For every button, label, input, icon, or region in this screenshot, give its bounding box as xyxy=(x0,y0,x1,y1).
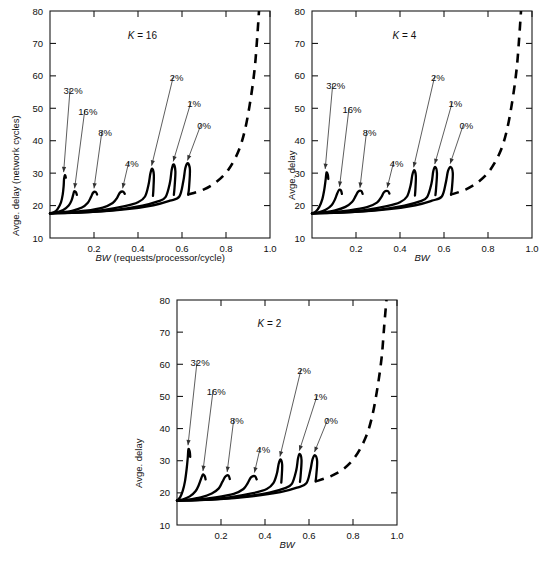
x-tick-label: 1.0 xyxy=(390,530,403,541)
annotation-leader-line xyxy=(435,102,453,164)
series-annotation-label: 16% xyxy=(78,106,98,117)
chart-panel-k16: 10203040506070800.20.40.60.81.0K = 1632%… xyxy=(0,0,285,280)
annotation-arrowhead xyxy=(226,467,230,472)
panel-title: K = 2 xyxy=(258,318,282,329)
y-tick-label: 70 xyxy=(32,38,43,49)
series-annotation-label: 1% xyxy=(449,98,463,109)
y-tick-label: 10 xyxy=(159,520,170,531)
y-tick-label: 30 xyxy=(32,168,43,179)
annotation-leader-line xyxy=(360,131,367,188)
series-annotation-label: 8% xyxy=(98,127,112,138)
annotation-leader-line xyxy=(152,76,174,166)
x-tick-label: 1.0 xyxy=(263,243,276,254)
x-axis-symbol: BW xyxy=(415,252,430,263)
annotation-arrowhead xyxy=(73,183,77,188)
y-tick-label: 80 xyxy=(32,6,43,17)
series-annotation-label: 32% xyxy=(326,80,346,91)
x-axis-symbol: BW xyxy=(96,252,111,263)
annotation-arrowhead xyxy=(122,183,126,189)
series-annotation-label: 2% xyxy=(170,72,184,83)
x-tick-label: 1.0 xyxy=(525,243,538,254)
x-tick-label: 0.6 xyxy=(437,243,450,254)
series-annotation-label: 0% xyxy=(324,415,338,426)
annotation-arrowhead xyxy=(299,445,303,451)
y-tick-label: 70 xyxy=(159,327,170,338)
y-tick-label: 40 xyxy=(32,135,43,146)
annotation-arrowhead xyxy=(93,183,97,188)
y-axis-title: Avge. delay xyxy=(133,439,144,488)
x-tick-label: 0.4 xyxy=(258,530,271,541)
series-annotation-label: 1% xyxy=(314,391,328,402)
annotation-leader-line xyxy=(414,76,435,168)
y-tick-label: 80 xyxy=(294,6,305,17)
chart-panel-k2: 10203040506070800.20.40.60.81.0K = 232%1… xyxy=(127,288,427,571)
delay-curve-1pct xyxy=(177,454,302,501)
series-annotation-label: 32% xyxy=(64,85,84,96)
x-tick-label: 0.6 xyxy=(302,530,315,541)
series-annotation-label: 4% xyxy=(256,444,270,455)
y-tick-label: 60 xyxy=(32,70,43,81)
y-tick-label: 80 xyxy=(159,295,170,306)
annotation-arrowhead xyxy=(413,162,417,168)
series-annotation-label: 8% xyxy=(230,415,244,426)
plot-area-k4: 10203040506070800.20.40.60.81.0K = 432%1… xyxy=(282,0,557,280)
series-annotation-label: 4% xyxy=(390,158,404,169)
x-axis-title: BW xyxy=(280,539,295,550)
annotation-leader-line xyxy=(299,395,317,451)
panel-title: K = 16 xyxy=(128,30,158,41)
y-tick-label: 40 xyxy=(294,135,305,146)
chart-panel-k4: 10203040506070800.20.40.60.81.0K = 432%1… xyxy=(282,0,557,280)
annotation-arrowhead xyxy=(173,156,177,162)
annotation-arrowhead xyxy=(187,155,191,161)
annotation-leader-line xyxy=(188,361,197,445)
annotation-arrowhead xyxy=(254,467,258,473)
y-tick-label: 50 xyxy=(294,103,305,114)
annotation-leader-line xyxy=(173,102,191,162)
annotation-arrowhead xyxy=(450,158,454,164)
y-tick-label: 60 xyxy=(159,359,170,370)
annotation-leader-line xyxy=(203,390,213,471)
plot-area-k16: 10203040506070800.20.40.60.81.0K = 1632%… xyxy=(0,0,285,280)
y-tick-label: 20 xyxy=(159,487,170,498)
series-annotation-label: 8% xyxy=(363,127,377,138)
annotation-leader-line xyxy=(280,369,301,457)
annotation-leader-line xyxy=(325,84,333,169)
y-tick-label: 50 xyxy=(32,103,43,114)
annotation-leader-line xyxy=(227,419,234,472)
series-annotation-label: 16% xyxy=(343,104,363,115)
x-tick-label: 0.2 xyxy=(214,530,227,541)
x-axis-title: BW xyxy=(415,252,430,263)
annotation-arrowhead xyxy=(186,440,190,445)
plot-area-k2: 10203040506070800.20.40.60.81.0K = 232%1… xyxy=(127,288,427,571)
y-tick-label: 30 xyxy=(159,455,170,466)
series-annotation-label: 16% xyxy=(207,386,227,397)
x-tick-label: 0.2 xyxy=(349,243,362,254)
series-annotation-label: 0% xyxy=(197,120,211,131)
y-tick-label: 20 xyxy=(32,200,43,211)
series-annotation-label: 0% xyxy=(460,120,474,131)
x-tick-label: 0.8 xyxy=(346,530,359,541)
y-tick-label: 40 xyxy=(159,423,170,434)
y-tick-label: 60 xyxy=(294,70,305,81)
series-annotation-label: 32% xyxy=(191,357,211,368)
annotation-arrowhead xyxy=(338,181,342,186)
annotation-arrowhead xyxy=(434,158,438,164)
y-tick-label: 20 xyxy=(294,200,305,211)
delay-curve-32pct xyxy=(312,172,328,213)
x-axis-symbol: BW xyxy=(280,539,295,550)
annotation-arrowhead xyxy=(315,446,319,452)
series-annotation-label: 1% xyxy=(187,98,201,109)
y-axis-title: Avge. delay (network cycles) xyxy=(10,115,21,236)
x-axis-title: BW (requests/processor/cycle) xyxy=(96,252,225,263)
y-tick-label: 70 xyxy=(294,38,305,49)
x-tick-label: 0.8 xyxy=(481,243,494,254)
annotation-leader-line xyxy=(340,108,350,187)
annotation-leader-line xyxy=(94,131,102,189)
x-tick-label: 0.4 xyxy=(393,243,406,254)
y-axis-title: Avge. delay xyxy=(286,151,297,200)
y-tick-label: 10 xyxy=(294,233,305,244)
y-tick-label: 10 xyxy=(32,233,43,244)
series-annotation-label: 2% xyxy=(431,72,445,83)
series-annotation-label: 4% xyxy=(125,158,139,169)
panel-title: K = 4 xyxy=(393,30,417,41)
